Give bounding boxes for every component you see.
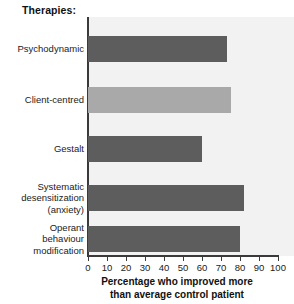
category-label-line: Gestalt bbox=[0, 143, 84, 155]
x-axis-tick bbox=[240, 256, 241, 261]
category-label: Operantbehaviourmodification bbox=[0, 222, 84, 257]
bar bbox=[88, 226, 240, 252]
category-label: Gestalt bbox=[0, 143, 84, 155]
x-axis-tick bbox=[259, 256, 260, 261]
x-axis-tick-label: 0 bbox=[85, 262, 90, 273]
category-label-line: Psychodynamic bbox=[0, 43, 84, 55]
bar bbox=[88, 136, 202, 162]
x-axis-tick bbox=[164, 256, 165, 261]
bar bbox=[88, 36, 227, 62]
x-axis-title-line-1: Percentage who improved more bbox=[60, 276, 294, 289]
category-label-line: modification bbox=[0, 245, 84, 257]
x-axis-title-line-2: than average control patient bbox=[60, 289, 294, 302]
x-axis-tick-label: 50 bbox=[178, 262, 189, 273]
x-axis-tick bbox=[278, 256, 279, 261]
x-axis-title: Percentage who improved more than averag… bbox=[60, 276, 294, 301]
bar bbox=[88, 87, 231, 113]
category-label-line: desensitization bbox=[0, 192, 84, 204]
chart-title: Therapies: bbox=[22, 4, 76, 16]
x-axis-tick bbox=[202, 256, 203, 261]
x-axis-tick bbox=[221, 256, 222, 261]
x-axis-tick-label: 30 bbox=[140, 262, 151, 273]
category-label-line: Client-centred bbox=[0, 94, 84, 106]
x-axis-tick bbox=[88, 256, 89, 261]
x-axis-tick-labels: 0102030405060708090100 bbox=[0, 262, 294, 276]
x-axis-tick bbox=[145, 256, 146, 261]
x-axis-tick bbox=[126, 256, 127, 261]
x-axis-tick-label: 20 bbox=[121, 262, 132, 273]
x-axis-tick-label: 10 bbox=[102, 262, 113, 273]
x-axis-tick bbox=[183, 256, 184, 261]
category-label: Client-centred bbox=[0, 94, 84, 106]
bars-layer bbox=[88, 17, 294, 256]
x-axis-tick-label: 70 bbox=[216, 262, 227, 273]
x-axis-tick-label: 80 bbox=[235, 262, 246, 273]
category-axis-labels: PsychodynamicClient-centredGestaltSystem… bbox=[0, 17, 84, 256]
x-axis-tick-label: 100 bbox=[270, 262, 286, 273]
category-label: Psychodynamic bbox=[0, 43, 84, 55]
category-label-line: Operant bbox=[0, 222, 84, 234]
category-label-line: (anxiety) bbox=[0, 204, 84, 216]
category-label-line: Systematic bbox=[0, 181, 84, 193]
x-axis-tick bbox=[107, 256, 108, 261]
category-label: Systematicdesensitization(anxiety) bbox=[0, 181, 84, 216]
x-axis-tick-label: 40 bbox=[159, 262, 170, 273]
category-label-line: behaviour bbox=[0, 233, 84, 245]
x-axis-tick-label: 90 bbox=[254, 262, 265, 273]
bar bbox=[88, 185, 244, 211]
x-axis-tick-label: 60 bbox=[197, 262, 208, 273]
bar-chart: Therapies: PsychodynamicClient-centredGe… bbox=[0, 0, 294, 304]
